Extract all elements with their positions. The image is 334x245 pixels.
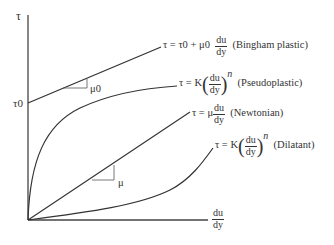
frac-num: du bbox=[216, 34, 226, 45]
dilatant-exponent: n bbox=[263, 130, 268, 141]
pseudoplastic-curve bbox=[28, 86, 177, 220]
newtonian-fraction: dudy bbox=[213, 103, 225, 125]
frac-num: du bbox=[214, 102, 224, 113]
newtonian-equation: τ = μdudy (Newtonian) bbox=[192, 103, 283, 125]
x-axis-label: dudy bbox=[212, 208, 224, 230]
frac-den: dy bbox=[214, 115, 224, 126]
pseudoplastic-equation: τ = K(dudy)n (Pseudoplastic) bbox=[179, 73, 302, 95]
frac-den: dy bbox=[246, 147, 256, 158]
bingham-equation: τ = τ0 + μ0 dudy (Bingham plastic) bbox=[163, 35, 308, 57]
frac-num: du bbox=[213, 207, 223, 218]
frac-num: du bbox=[246, 134, 256, 145]
pseudoplastic-name: (Pseudoplastic) bbox=[238, 77, 303, 88]
frac-den: dy bbox=[216, 47, 226, 58]
y-intercept-label: τ0 bbox=[13, 98, 23, 109]
bingham-eq-prefix: τ = τ0 + μ0 bbox=[163, 39, 210, 50]
pseudoplastic-exponent: n bbox=[227, 68, 232, 79]
bingham-line bbox=[28, 47, 161, 103]
bingham-slope-label: μ0 bbox=[90, 84, 101, 95]
newtonian-slope-triangle bbox=[92, 165, 114, 180]
bingham-fraction: dudy bbox=[215, 35, 227, 57]
pseudoplastic-eq-prefix: τ = K bbox=[179, 77, 202, 88]
frac-den: dy bbox=[210, 85, 220, 96]
dilatant-name: (Dilatant) bbox=[274, 139, 315, 150]
newtonian-line bbox=[28, 112, 190, 220]
newtonian-slope-label: μ bbox=[118, 178, 124, 189]
dilatant-fraction: dudy bbox=[245, 135, 257, 157]
bingham-name: (Bingham plastic) bbox=[232, 39, 308, 50]
pseudoplastic-fraction: dudy bbox=[209, 73, 221, 95]
newtonian-eq-prefix: τ = μ bbox=[192, 107, 213, 118]
y-axis-label: τ bbox=[16, 10, 21, 22]
dilatant-eq-prefix: τ = K bbox=[215, 139, 238, 150]
dilatant-equation: τ = K(dudy)n (Dilatant) bbox=[215, 135, 314, 157]
frac-num: du bbox=[210, 72, 220, 83]
frac-den: dy bbox=[213, 220, 223, 231]
newtonian-name: (Newtonian) bbox=[230, 107, 283, 118]
